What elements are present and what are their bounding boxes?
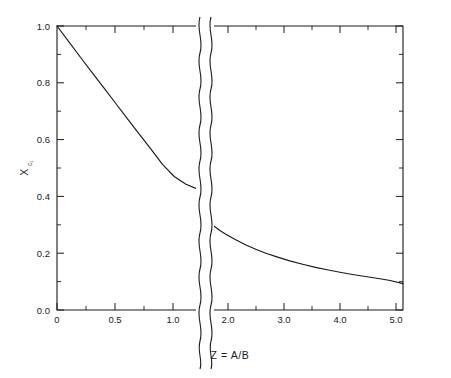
axis-break-group (196, 17, 214, 369)
y-tick-label-0p6: 0.6 (37, 134, 50, 145)
y-tick-label-1p0: 1.0 (37, 21, 50, 32)
x-tick-label-2p0: 2.0 (221, 314, 234, 325)
x-tick-label-0: 0 (54, 314, 59, 325)
x-axis-ticks-bottom (57, 303, 396, 310)
y-axis-title-group: X c₁ (18, 160, 33, 176)
y-tick-label-0p0: 0.0 (37, 305, 50, 316)
x-tick-labels: 0 0.5 1.0 2.0 3.0 4.0 5.0 (54, 314, 402, 325)
x-tick-label-4p0: 4.0 (333, 314, 346, 325)
x-tick-label-1p0: 1.0 (166, 314, 179, 325)
x-tick-label-5p0: 5.0 (389, 314, 402, 325)
frame-rect (57, 26, 403, 310)
y-tick-label-0p2: 0.2 (37, 248, 50, 259)
y-axis-title-symbol: X (18, 168, 30, 176)
chart-figure: 0 0.5 1.0 2.0 3.0 4.0 5.0 1.0 0.8 0.6 0.… (0, 0, 451, 378)
chart-canvas: 0 0.5 1.0 2.0 3.0 4.0 5.0 1.0 0.8 0.6 0.… (0, 0, 451, 378)
x-axis-ticks-top (86, 26, 396, 33)
data-series-group (57, 26, 403, 284)
data-curve-xc1 (57, 26, 403, 284)
y-axis-title-subscript: c₁ (26, 160, 33, 166)
x-tick-label-3p0: 3.0 (277, 314, 290, 325)
x-axis-title-group: Z = A/B (211, 349, 250, 361)
y-tick-label-0p4: 0.4 (37, 191, 50, 202)
y-axis-ticks-left (57, 26, 64, 310)
y-tick-labels: 1.0 0.8 0.6 0.4 0.2 0.0 (37, 21, 50, 316)
y-axis-ticks-right (396, 26, 403, 310)
x-axis-title: Z = A/B (211, 349, 250, 361)
x-tick-label-0p5: 0.5 (108, 314, 121, 325)
plot-frame (57, 26, 403, 310)
y-tick-label-0p8: 0.8 (37, 77, 50, 88)
